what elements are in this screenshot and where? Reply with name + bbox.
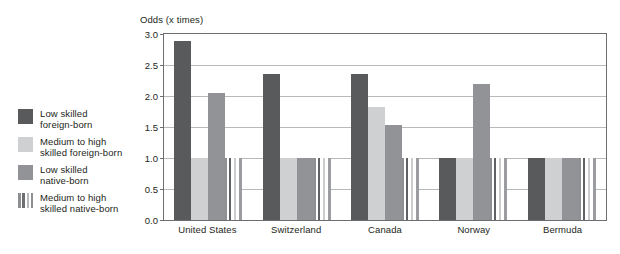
bar-low-skilled-native-born: [297, 158, 314, 220]
bar-low-skilled-foreign-born: [351, 74, 368, 220]
bar-medium-high-skilled-foreign-born: [456, 158, 473, 220]
bar-low-skilled-native-born: [562, 158, 579, 220]
bar-medium-high-skilled-foreign-born: [191, 158, 208, 220]
chart-figure: Low skilled foreign-born Medium to high …: [0, 0, 620, 254]
bar-medium-high-skilled-native-born: [314, 158, 331, 220]
bar-low-skilled-native-born: [473, 84, 490, 220]
x-axis-label: Canada: [341, 224, 430, 235]
bar-low-skilled-foreign-born: [174, 41, 191, 220]
bar-medium-high-skilled-native-born: [225, 158, 242, 220]
y-axis-tick-label: 1.0: [145, 153, 158, 164]
legend-label-line-2: foreign-born: [40, 119, 92, 130]
bar-medium-high-skilled-native-born: [402, 158, 419, 220]
bar-group: [252, 34, 340, 220]
legend-label-line-1: Medium to high: [40, 192, 106, 203]
y-axis-title: Odds (x times): [140, 14, 203, 25]
bar-medium-high-skilled-native-born: [579, 158, 596, 220]
bar-low-skilled-native-born: [385, 125, 402, 220]
y-axis-tick-label: 0.0: [145, 215, 158, 226]
legend-label-line-2: native-born: [40, 175, 89, 186]
medium-gray-swatch-icon: [18, 165, 33, 180]
striped-swatch-icon: [18, 193, 33, 208]
bar-medium-high-skilled-foreign-born: [545, 158, 562, 220]
bar-low-skilled-foreign-born: [439, 158, 456, 220]
y-axis-tick-label: 2.0: [145, 91, 158, 102]
x-axis-label: Switzerland: [252, 224, 341, 235]
legend-item-label: Medium to high skilled native-born: [40, 192, 118, 214]
bar-group: [518, 34, 606, 220]
legend-label-line-2: skilled foreign-born: [40, 147, 122, 158]
legend-item-low-skilled-native-born: Low skilled native-born: [18, 164, 140, 186]
plot-area: 3.02.52.01.51.00.50.0: [163, 33, 607, 221]
y-axis-tick-label: 2.5: [145, 60, 158, 71]
legend-label-line-2: skilled native-born: [40, 203, 118, 214]
x-axis-label: United States: [163, 224, 252, 235]
x-axis-label: Bermuda: [518, 224, 607, 235]
legend-label-line-1: Low skilled: [40, 108, 88, 119]
x-axis-label: Norway: [429, 224, 518, 235]
legend-item-label: Medium to high skilled foreign-born: [40, 136, 122, 158]
y-axis-tick-label: 0.5: [145, 184, 158, 195]
x-axis-labels: United StatesSwitzerlandCanadaNorwayBerm…: [163, 224, 607, 235]
plot-frame: 3.02.52.01.51.00.50.0: [163, 33, 607, 221]
bar-groups: [164, 34, 606, 220]
bar-low-skilled-foreign-born: [528, 158, 545, 220]
legend-item-low-skilled-foreign-born: Low skilled foreign-born: [18, 108, 140, 130]
y-axis-tick-mark: [160, 220, 164, 221]
bar-medium-high-skilled-native-born: [490, 158, 507, 220]
bar-medium-high-skilled-foreign-born: [280, 158, 297, 220]
light-gray-swatch-icon: [18, 137, 33, 152]
dark-gray-swatch-icon: [18, 109, 33, 124]
y-axis-tick-label: 3.0: [145, 29, 158, 40]
bar-medium-high-skilled-foreign-born: [368, 107, 385, 220]
legend-label-line-1: Low skilled: [40, 164, 88, 175]
bar-group: [341, 34, 429, 220]
y-axis-tick-label: 1.5: [145, 122, 158, 133]
bar-low-skilled-foreign-born: [263, 74, 280, 220]
bar-low-skilled-native-born: [208, 93, 225, 220]
legend-label-line-1: Medium to high: [40, 136, 106, 147]
legend-item-medium-high-skilled-native-born: Medium to high skilled native-born: [18, 192, 140, 214]
legend-item-label: Low skilled foreign-born: [40, 108, 92, 130]
legend-item-medium-high-skilled-foreign-born: Medium to high skilled foreign-born: [18, 136, 140, 158]
legend-item-label: Low skilled native-born: [40, 164, 89, 186]
bar-group: [429, 34, 517, 220]
chart-legend: Low skilled foreign-born Medium to high …: [18, 108, 140, 220]
bar-group: [164, 34, 252, 220]
